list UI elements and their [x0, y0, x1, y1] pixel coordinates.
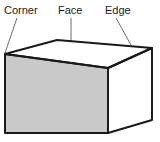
corner-leader-line	[5, 18, 17, 53]
labels-group: Corner Face Edge	[4, 4, 131, 16]
label-edge: Edge	[105, 4, 131, 16]
label-corner: Corner	[4, 4, 38, 16]
diagram-canvas: Corner Face Edge	[0, 0, 160, 142]
label-face: Face	[58, 4, 82, 16]
cuboid-group	[5, 40, 152, 133]
edge-leader-line	[116, 18, 131, 45]
box-parts-diagram: Corner Face Edge	[0, 0, 160, 142]
